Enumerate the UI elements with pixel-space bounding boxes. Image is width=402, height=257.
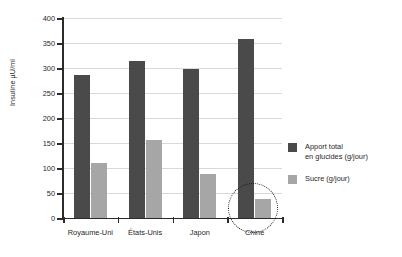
x-axis-label: Chine bbox=[210, 228, 300, 237]
legend-item-sucre: Sucre (g/jour) bbox=[288, 174, 400, 184]
bar-total bbox=[129, 61, 145, 219]
x-axis-tick bbox=[282, 217, 284, 223]
y-axis-tick-label: 350 bbox=[15, 39, 55, 48]
y-axis-tick-label: 200 bbox=[15, 114, 55, 123]
x-axis-tick bbox=[118, 217, 120, 223]
legend-label-apport-total-line1: Apport total bbox=[305, 142, 400, 152]
legend-item-apport-total: Apport total en glucides (g/jour) bbox=[288, 142, 400, 161]
y-axis-tick bbox=[57, 18, 64, 20]
annotation-dotted-circle bbox=[228, 183, 278, 233]
x-axis-tick bbox=[173, 217, 175, 223]
legend-label-apport-total-line2: en glucides (g/jour) bbox=[305, 152, 400, 162]
bar-total bbox=[74, 75, 90, 219]
y-axis-tick-label: 50 bbox=[15, 189, 55, 198]
bar-chart: Insuline µU/ml Apport total en glucides … bbox=[0, 0, 402, 257]
y-axis-tick bbox=[57, 43, 64, 45]
x-axis-tick bbox=[63, 217, 65, 223]
bar-sucre bbox=[91, 163, 107, 218]
y-axis-tick bbox=[57, 68, 64, 70]
legend-label-sucre: Sucre (g/jour) bbox=[305, 174, 400, 184]
y-axis-tick bbox=[57, 143, 64, 145]
bar-total bbox=[183, 69, 199, 218]
chart-legend: Apport total en glucides (g/jour) Sucre … bbox=[288, 142, 400, 197]
y-axis-tick-label: 0 bbox=[15, 214, 55, 223]
y-axis-tick bbox=[57, 168, 64, 170]
y-axis-tick bbox=[57, 193, 64, 195]
y-axis-tick-label: 250 bbox=[15, 89, 55, 98]
y-axis-tick bbox=[57, 118, 64, 120]
legend-swatch-sucre bbox=[288, 175, 297, 184]
y-axis-tick-label: 150 bbox=[15, 139, 55, 148]
bar-sucre bbox=[200, 174, 216, 218]
y-axis-tick-label: 400 bbox=[15, 14, 55, 23]
legend-swatch-apport-total bbox=[288, 143, 297, 152]
x-axis-tick bbox=[227, 217, 229, 223]
gridline bbox=[63, 18, 282, 19]
y-axis-tick-label: 100 bbox=[15, 164, 55, 173]
y-axis-tick-label: 300 bbox=[15, 64, 55, 73]
y-axis-tick bbox=[57, 93, 64, 95]
bar-sucre bbox=[146, 140, 162, 219]
